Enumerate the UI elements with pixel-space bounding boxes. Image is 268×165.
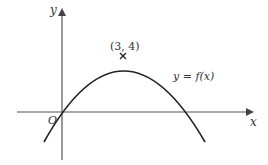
origin-label: O (48, 114, 57, 127)
maximum-point-marker (120, 53, 126, 59)
function-graph: y x O (3, 4) y = f(x) (0, 0, 268, 165)
curve-label: y = f(x) (172, 70, 214, 83)
maximum-point-label: (3, 4) (110, 40, 140, 53)
x-axis-label: x (250, 115, 257, 129)
y-axis-label: y (49, 3, 57, 17)
